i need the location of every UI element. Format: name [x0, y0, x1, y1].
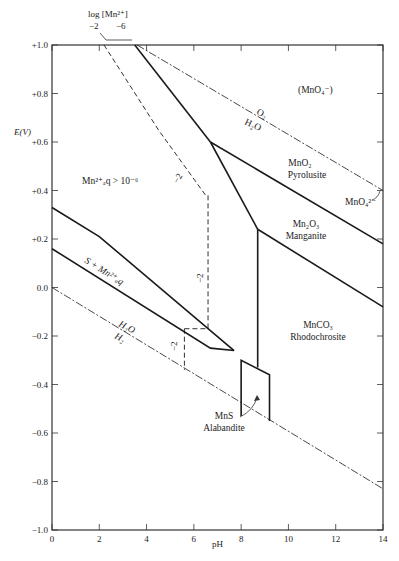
- x-tick-label: 6: [192, 534, 197, 544]
- boundary-line: [241, 360, 269, 421]
- label-mn-aq: Mn²⁺ₐq > 10⁻⁶: [82, 176, 138, 186]
- y-tick-label: +0.8: [32, 89, 49, 99]
- label-mno2: MnO₂: [288, 158, 311, 168]
- label-mnco3: MnCO₃: [303, 320, 333, 330]
- label-h2: H₂: [112, 330, 127, 344]
- label-rhodochrosite: Rhodochrosite: [290, 332, 345, 342]
- y-tick-label: +0.2: [32, 234, 48, 244]
- label-manganite: Manganite: [286, 231, 327, 241]
- x-tick-label: 10: [284, 534, 294, 544]
- x-tick-label: 12: [331, 534, 340, 544]
- y-tick-label: +1.0: [32, 40, 49, 50]
- y-tick-label: −1.0: [32, 525, 49, 535]
- y-tick-label: +0.6: [32, 137, 49, 147]
- label-mns: MnS: [215, 411, 233, 421]
- label-o2: O₂: [255, 107, 268, 120]
- label-mno4: (MnO₄⁻): [298, 85, 333, 96]
- x-axis-label: pH: [212, 539, 224, 549]
- label-mno4-2: MnO₄²⁻: [345, 197, 376, 207]
- y-tick-label: −0.4: [32, 380, 49, 390]
- label-minus2-mid: −2: [195, 273, 205, 283]
- y-tick-label: 0.0: [37, 283, 49, 293]
- x-tick-label: 8: [239, 534, 244, 544]
- plot-frame: [52, 45, 383, 530]
- x-tick-label: 4: [144, 534, 149, 544]
- label-minus2-lower: −2: [169, 341, 179, 351]
- label-alabandite: Alabandite: [203, 423, 245, 433]
- x-tick-label: 2: [97, 534, 102, 544]
- y-axis-label: E(V): [13, 127, 31, 137]
- y-tick-label: +0.4: [32, 186, 49, 196]
- label-pyrolusite: Pyrolusite: [288, 170, 327, 180]
- axis-ticks: 02468101214+1.0+0.8+0.6+0.4+0.20.0−0.2−0…: [32, 40, 388, 544]
- legend-entry-minus6: −6: [116, 21, 126, 31]
- boundary-line: [52, 207, 234, 350]
- legend-title: log [Mn²⁺]: [88, 9, 128, 19]
- y-tick-label: −0.2: [32, 331, 48, 341]
- legend: log [Mn²⁺] −2 −6: [88, 9, 132, 40]
- x-tick-label: 14: [379, 534, 389, 544]
- boundary-line: [52, 249, 234, 351]
- label-mn2o3: Mn₂O₃: [293, 219, 320, 229]
- eh-ph-diagram: 02468101214+1.0+0.8+0.6+0.4+0.20.0−0.2−0…: [0, 0, 399, 561]
- label-h2o-top: H₂O: [243, 117, 263, 133]
- boundary-line: [135, 45, 211, 142]
- y-tick-label: −0.8: [32, 477, 49, 487]
- y-tick-label: −0.6: [32, 428, 49, 438]
- label-minus2-upper: −2: [171, 172, 184, 185]
- x-tick-label: 0: [50, 534, 55, 544]
- legend-entry-minus2: −2: [89, 21, 99, 31]
- boundary-line: [52, 288, 383, 489]
